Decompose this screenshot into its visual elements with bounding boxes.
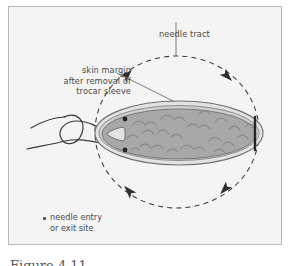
- label-skin-margin: skin margin after removal of trocar slee…: [27, 65, 131, 97]
- legend-line-1: needle entry: [50, 212, 102, 223]
- entry-mark-lower-left: [123, 148, 128, 153]
- entry-mark-upper-left: [123, 117, 128, 122]
- figure-frame: needle tract skin margin after removal o…: [8, 6, 282, 245]
- legend-line-2: or exit site: [50, 223, 102, 234]
- needle-tract-illustration: [9, 7, 281, 244]
- legend-bullet-icon: [43, 217, 46, 220]
- label-needle-tract: needle tract: [159, 29, 210, 40]
- figure-caption-partial: Figure 4.11: [10, 258, 240, 266]
- label-skin-margin-line3: trocar sleeve: [27, 86, 131, 97]
- label-needle-entry-legend: needle entry or exit site: [50, 212, 102, 234]
- label-skin-margin-line2: after removal of: [27, 76, 131, 87]
- figure-root: needle tract skin margin after removal o…: [0, 0, 292, 266]
- arrowhead-lower-left: [121, 183, 136, 199]
- label-skin-margin-line1: skin margin: [27, 65, 131, 76]
